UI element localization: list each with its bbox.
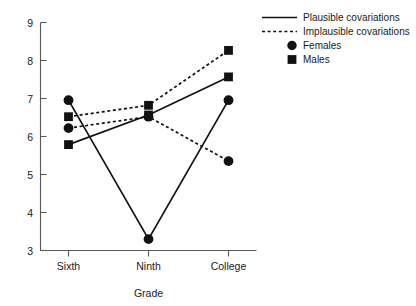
y-tick-label: 6 [27,131,33,143]
line-chart: 9 8 7 6 5 4 3 Sixth Ninth College Grade [0,0,416,306]
y-tick-label: 7 [27,93,33,105]
chart-figure: 9 8 7 6 5 4 3 Sixth Ninth College Grade [0,0,416,306]
data-point-marker [64,123,74,133]
legend-label: Males [303,54,330,65]
data-point-marker [224,73,233,82]
x-tick-label-college: College [211,260,247,272]
y-axis-tick-labels: 9 8 7 6 5 4 3 [27,17,33,257]
data-point-marker [144,101,153,110]
y-tick-label: 3 [27,245,33,257]
series-line [69,117,229,161]
x-axis-title: Grade [134,287,163,299]
x-axis-tick-labels: Sixth Ninth College [57,260,247,272]
x-tick-marks [69,251,229,257]
data-point-marker [224,156,234,166]
y-tick-label: 5 [27,169,33,181]
legend-entry-females: Females [287,40,341,51]
data-point-marker [64,140,73,149]
legend-label: Plausible covariations [303,12,400,23]
x-tick-label-ninth: Ninth [136,260,161,272]
legend-label: Females [303,40,341,51]
x-tick-label-sixth: Sixth [57,260,81,272]
y-tick-label: 8 [27,55,33,67]
data-point-marker [224,46,233,55]
legend-label: Implausible covariations [303,26,410,37]
data-point-marker [224,95,234,105]
y-tick-label: 9 [27,17,33,29]
axes [41,23,257,257]
legend-entry-males: Males [288,54,330,65]
data-point-marker [144,234,154,244]
legend-square-marker-icon [288,55,297,64]
y-tick-label: 4 [27,207,33,219]
series-implausible-males [64,46,233,121]
data-point-marker [144,111,153,120]
data-point-marker [64,95,74,105]
legend-entry-plausible: Plausible covariations [262,12,400,23]
axis-lines [41,23,257,251]
legend-circle-marker-icon [287,41,296,50]
y-tick-marks [41,23,47,251]
chart-legend: Plausible covariations Implausible covar… [262,12,410,65]
legend-entry-implausible: Implausible covariations [262,26,410,37]
data-point-marker [64,112,73,121]
series-implausible-females [64,112,234,166]
